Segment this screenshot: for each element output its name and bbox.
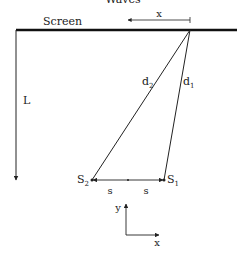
midpoint-dot xyxy=(127,179,129,181)
d2-label: d2 xyxy=(142,75,154,90)
y-axis-label: y xyxy=(114,202,121,213)
d1-label: d1 xyxy=(183,75,195,90)
length-label: L xyxy=(23,94,31,107)
path-d1 xyxy=(164,30,190,180)
source-s1-dot xyxy=(163,179,166,182)
s2-label: S2 xyxy=(77,173,89,188)
screen-label: Screen xyxy=(43,15,82,28)
x-distance-label: x xyxy=(156,8,162,19)
double-slit-diagram: Waves Screen x L d2 d1 s s S2 S1 y x xyxy=(0,0,246,258)
source-s2-dot xyxy=(91,179,94,182)
s1-label: S1 xyxy=(167,173,179,188)
path-d2 xyxy=(92,30,190,180)
s-right-label: s xyxy=(143,185,148,196)
s-left-label: s xyxy=(107,185,112,196)
x-axis-label: x xyxy=(154,237,160,248)
title-partial: Waves xyxy=(105,0,141,6)
